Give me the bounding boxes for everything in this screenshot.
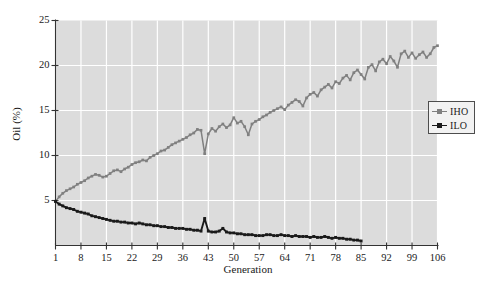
legend-swatch-ilo — [432, 125, 447, 126]
x-tick-label: 64 — [271, 252, 299, 263]
chart-figure: Oil (%) Generation 510152025181522293643… — [0, 0, 496, 287]
legend-label-ilo: ILO — [450, 120, 467, 131]
x-tick-label: 8 — [67, 252, 95, 263]
chart-plot-area — [0, 0, 496, 287]
x-tick-label: 50 — [220, 252, 248, 263]
y-tick-label: 5 — [24, 194, 50, 205]
legend-entry-ilo: ILO — [432, 118, 467, 132]
y-tick-label: 15 — [24, 104, 50, 115]
x-tick-label: 85 — [347, 252, 375, 263]
legend-label-iho: IHO — [450, 106, 468, 117]
x-tick-label: 43 — [194, 252, 222, 263]
legend-swatch-iho — [432, 111, 447, 112]
x-tick-label: 1 — [42, 252, 70, 263]
x-tick-label: 78 — [322, 252, 350, 263]
legend-entry-iho: IHO — [432, 104, 468, 118]
x-tick-label: 71 — [296, 252, 324, 263]
x-tick-label: 57 — [245, 252, 273, 263]
y-tick-label: 20 — [24, 59, 50, 70]
x-tick-label: 15 — [92, 252, 120, 263]
x-tick-label: 99 — [398, 252, 426, 263]
x-axis-label: Generation — [0, 263, 496, 275]
chart-legend: IHO ILO — [428, 101, 475, 134]
x-tick-label: 29 — [143, 252, 171, 263]
x-tick-label: 106 — [424, 252, 452, 263]
y-tick-label: 10 — [24, 149, 50, 160]
y-axis-label: Oil (%) — [10, 94, 22, 154]
x-tick-label: 22 — [118, 252, 146, 263]
x-tick-label: 92 — [373, 252, 401, 263]
y-tick-label: 25 — [24, 14, 50, 25]
x-tick-label: 36 — [169, 252, 197, 263]
